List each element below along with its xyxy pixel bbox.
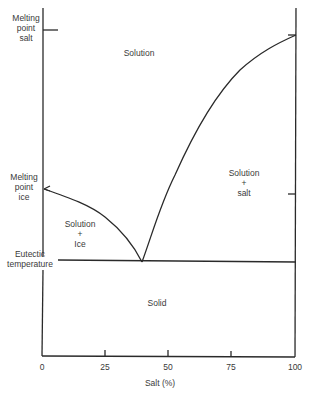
x-axis <box>42 356 295 357</box>
x-tick-50: 50 <box>158 362 178 372</box>
eutectic-label: Eutectic temperature <box>4 249 56 269</box>
x-tick-0: 0 <box>32 362 52 372</box>
eutectic-line <box>58 260 296 262</box>
x-tick-100: 100 <box>283 362 307 372</box>
mp-ice-label: Melting point ice <box>8 172 40 202</box>
x-tick-75: 75 <box>221 362 241 372</box>
x-axis-label: Salt (%) <box>140 378 180 388</box>
right-axis <box>295 8 296 357</box>
left-axis-lower <box>42 270 43 356</box>
salt-liquidus-curve <box>142 35 296 262</box>
x-tick-25: 25 <box>95 362 115 372</box>
region-solution-ice: Solution + Ice <box>55 219 105 249</box>
mp-salt-label: Melting point salt <box>10 13 42 43</box>
region-solution-salt: Solution + salt <box>219 168 269 198</box>
region-solution: Solution <box>114 48 164 58</box>
region-solid: Solid <box>137 298 177 308</box>
